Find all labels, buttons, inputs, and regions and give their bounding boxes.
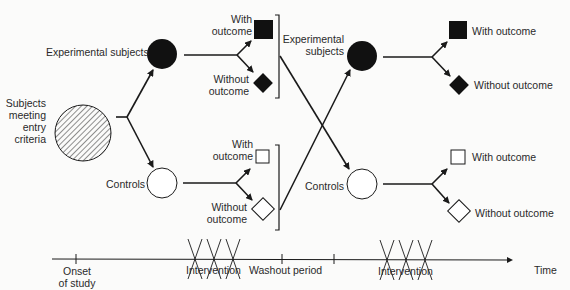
entry-population-circle (55, 105, 111, 161)
label-line: of study (56, 277, 98, 289)
label-line: Onset (56, 265, 98, 277)
time-axis-label: Time (534, 264, 557, 276)
label-line: outcome (208, 25, 252, 37)
timeline-axis (52, 254, 513, 264)
label-line: outcome (205, 85, 249, 97)
ctl-without-outcome-label-2: Without outcome (475, 207, 554, 219)
washout-period-label: Washout period (249, 264, 322, 276)
label-line: subjects (282, 45, 344, 57)
bracket-control-1 (275, 145, 279, 230)
exp-without-outcome-label-1: Without outcome (205, 73, 249, 97)
label-line: With (208, 13, 252, 25)
period2-outcome-forks (383, 42, 450, 203)
experimental-group-circle-1 (147, 39, 177, 69)
ctl-with-outcome-square-2 (451, 150, 465, 164)
controls-label-1: Controls (106, 178, 145, 190)
label-line: With (209, 138, 253, 150)
label-line: Without (203, 201, 247, 213)
period1-outcome-forks (183, 41, 253, 200)
control-group-circle-1 (147, 168, 177, 198)
entry-criteria-label: Subjects meeting entry criteria (4, 97, 46, 145)
ctl-without-outcome-diamond-1 (252, 198, 275, 221)
controls-label-2: Controls (305, 180, 344, 192)
control-group-circle-2 (347, 169, 377, 199)
label-line: Without (205, 73, 249, 85)
label-line: outcome (209, 150, 253, 162)
exp-without-outcome-diamond-2 (449, 75, 469, 95)
intervention-label-1: Intervention (186, 264, 241, 276)
exp-without-outcome-label-2: Without outcome (474, 79, 553, 91)
ctl-with-outcome-label-2: With outcome (472, 151, 536, 163)
exp-with-outcome-label-1: With outcome (208, 13, 252, 37)
experimental-subjects-label-2: Experimental subjects (282, 33, 344, 57)
ctl-without-outcome-diamond-2 (448, 200, 471, 223)
experimental-group-circle-2 (347, 41, 377, 71)
intervention-label-2: Intervention (378, 265, 433, 277)
onset-of-study-label: Onset of study (56, 265, 98, 289)
label-line: meeting (4, 109, 46, 121)
exp-with-outcome-square-1 (254, 20, 273, 39)
exp-without-outcome-diamond-1 (253, 73, 273, 93)
label-line: entry (4, 121, 46, 133)
ctl-with-outcome-label-1: With outcome (209, 138, 253, 162)
experimental-subjects-label-1: Experimental subjects (46, 46, 149, 58)
ctl-with-outcome-square-1 (256, 150, 269, 163)
label-line: criteria (4, 133, 46, 145)
label-line: Experimental (282, 33, 344, 45)
label-line: Subjects (4, 97, 46, 109)
bracket-experimental-1 (275, 15, 279, 98)
randomization-fork (116, 70, 153, 167)
ctl-without-outcome-label-1: Without outcome (203, 201, 247, 225)
label-line: outcome (203, 213, 247, 225)
exp-with-outcome-square-2 (449, 21, 467, 39)
exp-with-outcome-label-2: With outcome (472, 25, 536, 37)
